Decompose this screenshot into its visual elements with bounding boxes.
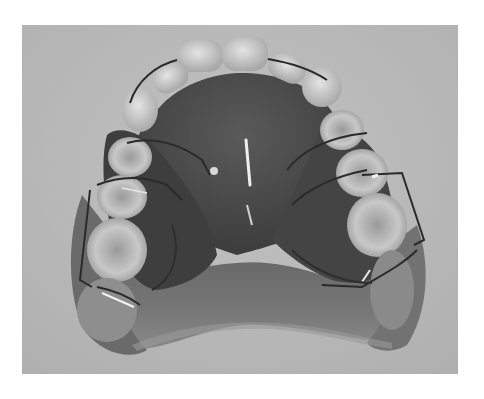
tooth-molar-right-2 (370, 250, 414, 330)
tooth-molar-left-1 (87, 218, 147, 282)
right-wire-highlight (372, 175, 378, 177)
tooth-molar-right-1 (347, 193, 407, 257)
tooth-premolar-right-2 (336, 149, 388, 197)
palate-highlight-spot (210, 167, 218, 175)
tooth-molar-left-2 (77, 278, 137, 342)
dental-cast-illustration (22, 25, 458, 374)
tooth-central-incisor-right (222, 37, 268, 71)
tooth-canine-right (302, 67, 342, 107)
tooth-canine-left (122, 88, 158, 132)
tooth-premolar-right-1 (320, 110, 364, 150)
dental-appliance-photo (22, 25, 458, 374)
